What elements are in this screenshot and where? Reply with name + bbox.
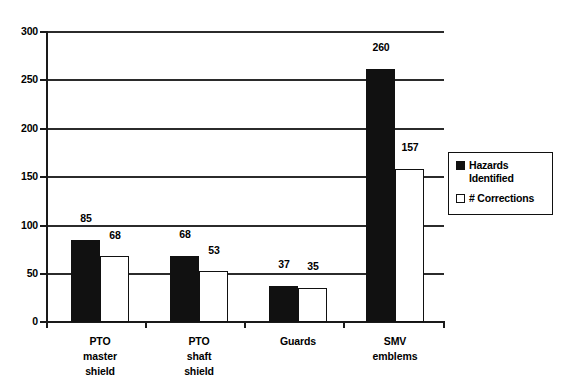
x-tick-2	[244, 321, 246, 328]
bar-value-hazards-3: 260	[361, 42, 401, 53]
x-tick-0	[46, 321, 48, 328]
gridline-300	[47, 31, 444, 33]
x-tick-3	[343, 321, 345, 328]
category-line-2: emblems	[355, 349, 435, 364]
bar-hazards-guards	[269, 286, 298, 322]
category-line-1: PTO	[159, 334, 239, 349]
bar-hazards-pto-master-shield	[71, 240, 100, 322]
bar-value-corrections-3: 157	[390, 142, 430, 153]
x-axis-category-smv-emblems: SMV emblems	[355, 334, 435, 364]
bar-corrections-guards	[298, 288, 327, 322]
legend-swatch-filled-icon	[456, 161, 465, 170]
y-tick-50	[40, 273, 48, 275]
y-tick-200	[40, 128, 48, 130]
bar-hazards-smv-emblems	[366, 69, 395, 322]
y-axis-label-200: 200	[2, 123, 38, 133]
bar-value-corrections-0: 68	[95, 230, 135, 241]
y-tick-300	[40, 31, 48, 33]
x-tick-4	[443, 321, 445, 328]
y-axis-label-100: 100	[2, 220, 38, 230]
legend-label-hazards-line2: Identified	[469, 172, 552, 185]
y-axis-label-150: 150	[2, 171, 38, 181]
category-line-3: shield	[159, 364, 239, 379]
category-line-2: master	[60, 349, 140, 364]
bar-value-hazards-1: 68	[165, 229, 205, 240]
legend-label-corrections: # Corrections	[469, 192, 552, 205]
y-tick-250	[40, 79, 48, 81]
x-tick-1	[145, 321, 147, 328]
category-line-1: Guards	[258, 334, 338, 349]
bar-hazards-pto-shaft-shield	[170, 256, 199, 322]
legend: Hazards Identified # Corrections	[448, 152, 553, 215]
x-axis-category-pto-shaft-shield: PTO shaft shield	[159, 334, 239, 379]
y-axis-label-0: 0	[2, 316, 38, 326]
y-axis-label-50: 50	[2, 268, 38, 278]
legend-label-hazards-line1: Hazards	[469, 159, 552, 172]
bar-corrections-smv-emblems	[395, 169, 424, 322]
category-line-1: SMV	[355, 334, 435, 349]
bar-value-hazards-0: 85	[66, 213, 106, 224]
y-tick-100	[40, 225, 48, 227]
y-tick-150	[40, 176, 48, 178]
x-axis-category-pto-master-shield: PTO master shield	[60, 334, 140, 379]
legend-item-hazards-identified: Hazards Identified	[456, 159, 552, 185]
legend-item-corrections: # Corrections	[456, 192, 552, 205]
x-axis-category-guards: Guards	[258, 334, 338, 349]
y-axis-label-300: 300	[2, 26, 38, 36]
legend-swatch-hollow-icon	[456, 194, 465, 203]
category-line-1: PTO	[60, 334, 140, 349]
y-axis-label-250: 250	[2, 74, 38, 84]
bar-corrections-pto-shaft-shield	[199, 271, 228, 322]
bar-value-corrections-1: 53	[194, 245, 234, 256]
bar-corrections-pto-master-shield	[100, 256, 129, 322]
category-line-3: shield	[60, 364, 140, 379]
category-line-2: shaft	[159, 349, 239, 364]
bar-chart: 300 250 200 150 100 50 0 85 68 68 53 37 …	[0, 0, 566, 392]
bar-value-corrections-2: 35	[293, 261, 333, 272]
